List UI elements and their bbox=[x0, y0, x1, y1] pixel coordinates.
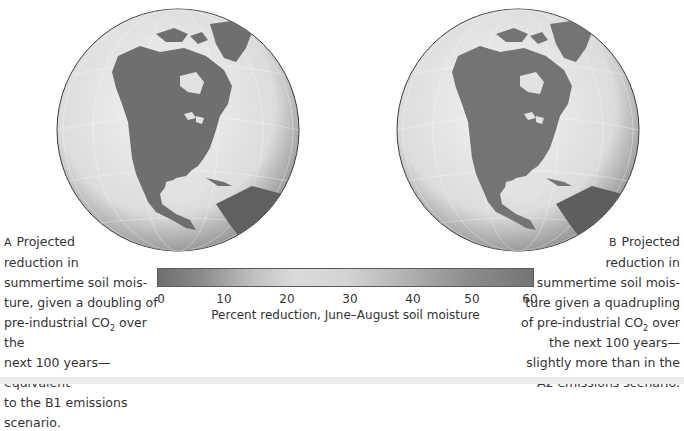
panel-b-marker: B bbox=[609, 236, 617, 249]
colorbar-axis-label: Percent reduction, June–August soil mois… bbox=[157, 308, 534, 322]
caption-text: pre-industrial CO bbox=[4, 315, 110, 330]
caption-panel-b: BProjected reduction in summertime soil … bbox=[512, 232, 680, 393]
colorbar-tick: 40 bbox=[405, 292, 420, 306]
colorbar-tick: 20 bbox=[279, 292, 294, 306]
caption-text: next 100 years—equivalent bbox=[4, 353, 164, 393]
caption-text: reduction in bbox=[512, 253, 680, 273]
caption-text: summertime soil mois- bbox=[512, 273, 680, 293]
caption-text: to the B1 emissions bbox=[4, 393, 164, 413]
caption-text: ture, given a doubling of bbox=[4, 293, 164, 313]
co2-subscript: 2 bbox=[643, 324, 648, 333]
colorbar-tick: 50 bbox=[464, 292, 479, 306]
caption-text: slightly more than in the bbox=[512, 353, 680, 373]
caption-text: scenario. bbox=[4, 413, 164, 431]
caption-text: Projected bbox=[622, 234, 680, 249]
panel-a-marker: A bbox=[4, 236, 12, 249]
caption-text: summertime soil mois- bbox=[4, 273, 164, 293]
north-america-globe-doubling bbox=[56, 8, 300, 252]
caption-text: over bbox=[652, 315, 680, 330]
north-america-globe-quadrupling bbox=[396, 8, 640, 252]
colorbar-tick: 0 bbox=[157, 292, 165, 306]
co2-subscript: 2 bbox=[110, 324, 115, 333]
globe-map-b bbox=[396, 8, 640, 252]
caption-text: the next 100 years— bbox=[512, 333, 680, 353]
colorbar-tick: 10 bbox=[216, 292, 231, 306]
globe-map-a bbox=[56, 8, 300, 252]
caption-text: reduction in bbox=[4, 253, 164, 273]
caption-text: of pre-industrial CO bbox=[521, 315, 643, 330]
colorbar-tick: 60 bbox=[522, 292, 537, 306]
colorbar-legend bbox=[157, 268, 534, 287]
bottom-divider-strip bbox=[0, 377, 684, 384]
caption-text: Projected bbox=[17, 234, 75, 249]
colorbar-tick: 30 bbox=[342, 292, 357, 306]
caption-panel-a: AProjected reduction in summertime soil … bbox=[4, 232, 164, 431]
